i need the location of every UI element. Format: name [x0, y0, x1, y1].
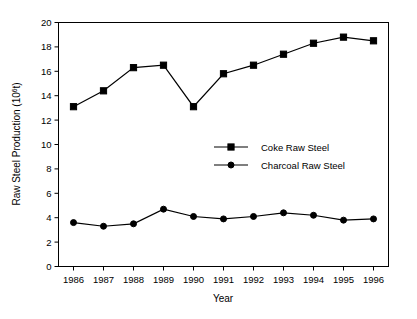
data-point-marker: [280, 51, 286, 57]
y-tick-label: 18: [41, 41, 52, 52]
legend-marker: [228, 162, 234, 168]
data-point-marker: [71, 220, 77, 226]
x-tick-label: 1992: [243, 274, 264, 285]
x-tick-label: 1990: [183, 274, 204, 285]
data-point-marker: [131, 221, 137, 227]
y-axis-title: Raw Steel Production (106t): [11, 82, 23, 205]
x-axis-tick-labels: 1986198719881989199019911992199319941995…: [63, 274, 384, 285]
line-chart: 02468101214161820 1986198719881989199019…: [0, 0, 417, 319]
data-point-marker: [371, 216, 377, 222]
legend-marker: [228, 144, 234, 150]
chart-figure: 02468101214161820 1986198719881989199019…: [0, 0, 417, 319]
data-point-marker: [251, 213, 257, 219]
y-tick-label: 10: [41, 139, 52, 150]
data-point-marker: [70, 104, 76, 110]
x-tick-label: 1987: [93, 274, 114, 285]
y-tick-label: 4: [46, 212, 51, 223]
x-tick-label: 1996: [363, 274, 384, 285]
y-tick-label: 8: [46, 163, 51, 174]
y-tick-label: 14: [41, 90, 52, 101]
data-point-marker: [250, 62, 256, 68]
data-point-marker: [310, 40, 316, 46]
x-axis-title: Year: [213, 293, 234, 304]
data-point-marker: [100, 88, 106, 94]
chart-background: [0, 0, 417, 319]
y-tick-label: 12: [41, 115, 52, 126]
legend-label: Coke Raw Steel: [261, 142, 329, 153]
x-tick-label: 1991: [213, 274, 234, 285]
y-tick-label: 16: [41, 66, 52, 77]
data-point-marker: [281, 210, 287, 216]
data-point-marker: [311, 212, 317, 218]
data-point-marker: [220, 71, 226, 77]
data-point-marker: [160, 62, 166, 68]
data-point-marker: [370, 38, 376, 44]
data-point-marker: [221, 216, 227, 222]
x-tick-label: 1994: [303, 274, 324, 285]
x-tick-label: 1986: [63, 274, 84, 285]
data-point-marker: [130, 65, 136, 71]
y-tick-label: 20: [41, 17, 52, 28]
data-point-marker: [101, 223, 107, 229]
data-point-marker: [161, 206, 167, 212]
x-tick-label: 1988: [123, 274, 144, 285]
x-tick-label: 1995: [333, 274, 354, 285]
y-tick-label: 6: [46, 188, 51, 199]
x-tick-label: 1993: [273, 274, 294, 285]
data-point-marker: [191, 213, 197, 219]
data-point-marker: [341, 217, 347, 223]
data-point-marker: [340, 34, 346, 40]
y-tick-label: 2: [46, 237, 51, 248]
legend-label: Charcoal Raw Steel: [261, 160, 345, 171]
x-tick-label: 1989: [153, 274, 174, 285]
data-point-marker: [190, 104, 196, 110]
y-tick-label: 0: [46, 261, 51, 272]
